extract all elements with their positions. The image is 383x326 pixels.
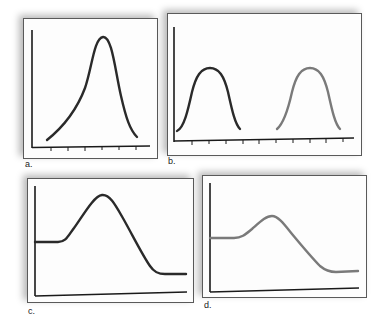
panel-d-label: d. [204, 301, 212, 310]
panel-d-x-axis [210, 288, 359, 292]
panel-d-curve [210, 216, 358, 272]
panel-d-plot [0, 0, 383, 326]
